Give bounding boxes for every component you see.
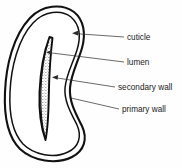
- cell-diagram-figure: cuticle lumen secondary wall primary wal…: [0, 0, 182, 168]
- label-cuticle: cuticle: [127, 33, 151, 42]
- leader-primary-wall: [71, 98, 119, 109]
- label-primary-wall: primary wall: [122, 105, 166, 114]
- label-lumen: lumen: [127, 58, 150, 67]
- label-secondary-wall: secondary wall: [118, 83, 173, 92]
- leader-line-primary-wall: [71, 98, 119, 109]
- diagram-canvas: cuticle lumen secondary wall primary wal…: [0, 0, 182, 168]
